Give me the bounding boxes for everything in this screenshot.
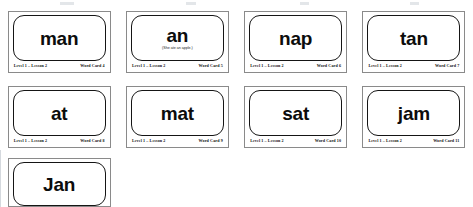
- word-card[interactable]: at Level 1 – Lesson 2 Word Card 8: [8, 86, 111, 148]
- card-number-label: Word Card 11: [433, 139, 459, 143]
- card-level-label: Level 1 – Lesson 2: [14, 64, 48, 68]
- card-cell: an (She ate an apple.) Level 1 – Lesson …: [118, 11, 236, 73]
- word-box: mat: [131, 90, 224, 136]
- card-word: man: [40, 29, 78, 48]
- word-card[interactable]: sat Level 1 – Lesson 2 Word Card 10: [244, 86, 347, 148]
- card-number-label: Word Card 10: [315, 139, 341, 143]
- card-word: at: [51, 104, 68, 123]
- card-number-label: Word Card 6: [317, 64, 341, 68]
- card-word: tan: [400, 29, 428, 48]
- card-level-label: Level 1 – Lesson 2: [250, 64, 284, 68]
- word-box: jam: [367, 90, 460, 136]
- card-footer: Level 1 – Lesson 2 Word Card 5: [131, 61, 224, 72]
- card-cell: mat Level 1 – Lesson 2 Word Card 9: [118, 86, 236, 148]
- card-footer: Level 1 – Lesson 2 Word Card 11: [367, 136, 460, 147]
- word-box: tan: [367, 15, 460, 61]
- card-word: Jan: [43, 175, 75, 194]
- scan-smudge: [410, 2, 419, 5]
- card-level-label: Level 1 – Lesson 2: [132, 64, 166, 68]
- card-number-label: Word Card 5: [199, 64, 223, 68]
- card-footer: Level 1 – Lesson 2 Word Card 9: [131, 136, 224, 147]
- card-number-label: Word Card 9: [199, 139, 223, 143]
- word-card[interactable]: an (She ate an apple.) Level 1 – Lesson …: [126, 11, 229, 73]
- card-cell: jam Level 1 – Lesson 2 Word Card 11: [355, 86, 473, 148]
- card-level-label: Level 1 – Lesson 2: [368, 64, 402, 68]
- card-word: jam: [398, 104, 430, 123]
- card-cell: nap Level 1 – Lesson 2 Word Card 6: [237, 11, 355, 73]
- card-cell: Jan: [0, 158, 118, 207]
- word-card[interactable]: man Level 1 – Lesson 2 Word Card 4: [8, 11, 111, 73]
- card-sentence: (She ate an apple.): [162, 47, 193, 51]
- card-level-label: Level 1 – Lesson 2: [250, 139, 284, 143]
- word-card[interactable]: nap Level 1 – Lesson 2 Word Card 6: [244, 11, 347, 73]
- word-card-sheet: man Level 1 – Lesson 2 Word Card 4 an (S…: [0, 0, 473, 207]
- card-number-label: Word Card 7: [435, 64, 459, 68]
- card-row: Jan: [0, 158, 473, 207]
- word-box: sat: [249, 90, 342, 136]
- card-footer: Level 1 – Lesson 2 Word Card 4: [13, 61, 106, 72]
- word-card[interactable]: Jan: [8, 158, 111, 207]
- card-footer: Level 1 – Lesson 2 Word Card 7: [367, 61, 460, 72]
- word-card[interactable]: mat Level 1 – Lesson 2 Word Card 9: [126, 86, 229, 148]
- scan-smudge: [186, 2, 196, 5]
- card-word: nap: [279, 29, 312, 48]
- word-box: nap: [249, 15, 342, 61]
- card-footer: Level 1 – Lesson 2 Word Card 8: [13, 136, 106, 147]
- word-card[interactable]: tan Level 1 – Lesson 2 Word Card 7: [362, 11, 465, 73]
- card-word: sat: [282, 104, 309, 123]
- card-level-label: Level 1 – Lesson 2: [132, 139, 166, 143]
- card-footer: Level 1 – Lesson 2 Word Card 6: [249, 61, 342, 72]
- card-footer: Level 1 – Lesson 2 Word Card 10: [249, 136, 342, 147]
- card-row: at Level 1 – Lesson 2 Word Card 8 mat Le…: [0, 86, 473, 148]
- card-word: an: [166, 26, 188, 45]
- card-level-label: Level 1 – Lesson 2: [368, 139, 402, 143]
- card-number-label: Word Card 8: [80, 139, 104, 143]
- scan-smudge: [300, 2, 309, 5]
- word-box: man: [13, 15, 106, 61]
- card-cell: man Level 1 – Lesson 2 Word Card 4: [0, 11, 118, 73]
- card-cell: at Level 1 – Lesson 2 Word Card 8: [0, 86, 118, 148]
- word-box: Jan: [13, 162, 106, 206]
- card-level-label: Level 1 – Lesson 2: [14, 139, 48, 143]
- card-number-label: Word Card 4: [80, 64, 104, 68]
- card-row: man Level 1 – Lesson 2 Word Card 4 an (S…: [0, 11, 473, 73]
- word-card[interactable]: jam Level 1 – Lesson 2 Word Card 11: [362, 86, 465, 148]
- card-cell: sat Level 1 – Lesson 2 Word Card 10: [237, 86, 355, 148]
- card-cell: tan Level 1 – Lesson 2 Word Card 7: [355, 11, 473, 73]
- card-word: mat: [161, 104, 194, 123]
- word-box: at: [13, 90, 106, 136]
- word-box: an (She ate an apple.): [131, 15, 224, 61]
- scan-smudge: [60, 2, 74, 5]
